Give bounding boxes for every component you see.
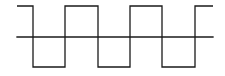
square-wave-svg xyxy=(0,0,225,76)
square-wave-diagram xyxy=(0,0,225,76)
